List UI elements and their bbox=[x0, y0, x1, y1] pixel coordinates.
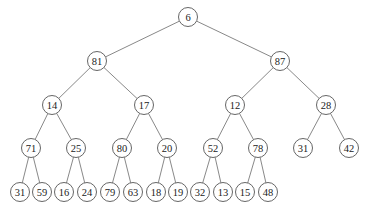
node-label: 20 bbox=[162, 143, 173, 154]
node-label: 31 bbox=[15, 187, 26, 198]
node-label: 48 bbox=[263, 187, 274, 198]
node-label: 28 bbox=[321, 100, 332, 111]
tree-edge bbox=[169, 157, 175, 183]
node-label: 16 bbox=[59, 187, 70, 198]
node-label: 17 bbox=[139, 100, 150, 111]
node-label: 24 bbox=[82, 187, 93, 198]
tree-edge bbox=[57, 113, 72, 139]
node-label: 78 bbox=[253, 143, 264, 154]
tree-edge bbox=[239, 113, 253, 139]
tree-edge bbox=[307, 113, 321, 139]
node-label: 71 bbox=[26, 143, 37, 154]
tree-nodes: 6818714171228712580205278314231591624796… bbox=[11, 8, 359, 202]
node-label: 13 bbox=[218, 187, 229, 198]
tree-node: 42 bbox=[340, 139, 359, 158]
tree-edges bbox=[22, 21, 344, 183]
tree-edge bbox=[215, 157, 221, 182]
tree-edge bbox=[33, 157, 39, 183]
node-label: 15 bbox=[240, 187, 251, 198]
tree-node: 19 bbox=[169, 183, 188, 202]
tree-edge bbox=[242, 68, 273, 99]
node-label: 52 bbox=[208, 143, 219, 154]
tree-edge bbox=[203, 157, 211, 183]
tree-node: 71 bbox=[22, 139, 41, 158]
tree-edge bbox=[248, 157, 256, 183]
tree-edge bbox=[22, 157, 28, 183]
tree-node: 12 bbox=[226, 96, 245, 115]
node-label: 25 bbox=[71, 143, 82, 154]
tree-node: 81 bbox=[88, 52, 107, 71]
tree-edge bbox=[35, 114, 48, 140]
tree-node: 17 bbox=[135, 96, 154, 115]
node-label: 14 bbox=[47, 100, 58, 111]
tree-node: 87 bbox=[271, 52, 290, 71]
tree-edge bbox=[126, 113, 139, 139]
node-label: 12 bbox=[230, 100, 241, 111]
tree-edge bbox=[148, 113, 162, 139]
node-label: 59 bbox=[37, 187, 48, 198]
tree-node: 16 bbox=[55, 183, 74, 202]
tree-node: 13 bbox=[214, 183, 233, 202]
node-label: 80 bbox=[117, 143, 128, 154]
tree-node: 32 bbox=[191, 183, 210, 202]
tree-node: 28 bbox=[317, 96, 336, 115]
tree-edge bbox=[104, 67, 137, 98]
tree-node: 18 bbox=[147, 183, 166, 202]
node-label: 79 bbox=[105, 187, 116, 198]
tree-node: 31 bbox=[11, 183, 30, 202]
tree-edge bbox=[287, 68, 319, 99]
node-label: 87 bbox=[275, 56, 286, 67]
tree-node: 63 bbox=[124, 183, 143, 202]
tree-edge bbox=[197, 21, 272, 57]
tree-node: 6 bbox=[179, 8, 198, 27]
tree-node: 20 bbox=[158, 139, 177, 158]
tree-node: 14 bbox=[43, 96, 62, 115]
binary-tree-diagram: 6818714171228712580205278314231591624796… bbox=[0, 0, 368, 216]
tree-node: 24 bbox=[78, 183, 97, 202]
node-label: 63 bbox=[128, 187, 139, 198]
tree-edge bbox=[260, 157, 266, 182]
tree-node: 25 bbox=[67, 139, 86, 158]
tree-edge bbox=[124, 157, 130, 183]
node-label: 6 bbox=[185, 12, 190, 23]
tree-node: 59 bbox=[33, 183, 52, 202]
node-label: 18 bbox=[151, 187, 162, 198]
tree-node: 52 bbox=[204, 139, 223, 158]
tree-edge bbox=[78, 157, 84, 183]
tree-edge bbox=[330, 113, 344, 139]
tree-edge bbox=[66, 157, 73, 183]
tree-edge bbox=[158, 157, 164, 183]
tree-node: 80 bbox=[113, 139, 132, 158]
tree-edge bbox=[112, 157, 119, 183]
node-label: 81 bbox=[92, 56, 103, 67]
tree-node: 15 bbox=[236, 183, 255, 202]
tree-edge bbox=[59, 68, 90, 99]
tree-node: 79 bbox=[101, 183, 120, 202]
tree-edge bbox=[217, 113, 230, 139]
tree-node: 48 bbox=[259, 183, 278, 202]
node-label: 32 bbox=[195, 187, 206, 198]
node-label: 19 bbox=[173, 187, 184, 198]
tree-node: 31 bbox=[294, 139, 313, 158]
tree-edge bbox=[106, 21, 180, 57]
node-label: 31 bbox=[298, 143, 309, 154]
node-label: 42 bbox=[344, 143, 355, 154]
tree-node: 78 bbox=[249, 139, 268, 158]
